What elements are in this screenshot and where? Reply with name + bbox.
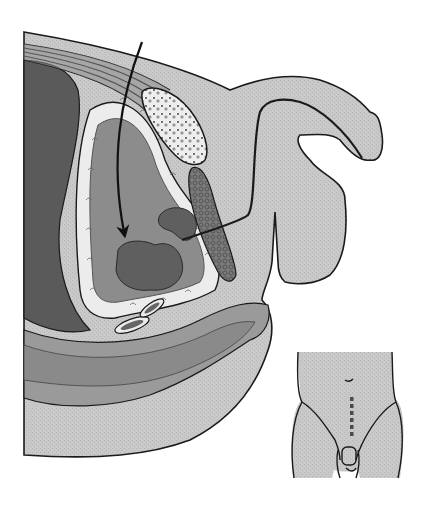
pelvic-cross-section [0,0,429,512]
tumor-mass-large [116,241,183,290]
torso-inset [292,352,404,478]
anatomical-diagram [0,0,429,512]
torso-outline [292,352,404,478]
